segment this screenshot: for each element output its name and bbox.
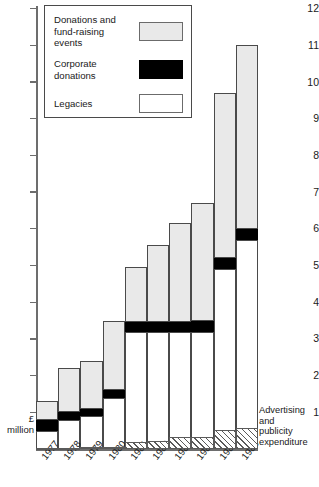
bar-segment-corporate-1982 — [147, 322, 169, 331]
bar-1984 — [191, 203, 213, 449]
advertising-band-1980 — [103, 447, 125, 449]
advertising-band-1979 — [80, 447, 102, 449]
legend-swatch-donations-icon — [139, 22, 183, 41]
bar-segment-donations-1986 — [236, 45, 258, 229]
bar-segment-legacies-1986 — [236, 240, 258, 449]
bar-segment-corporate-1979 — [80, 409, 102, 416]
bar-1986 — [236, 45, 258, 449]
bar-segment-legacies-1983 — [169, 332, 191, 449]
advertising-annotation-line1: Advertising and — [259, 405, 319, 426]
y-tick-label-8: 8 — [297, 150, 319, 160]
advertising-band-1977 — [36, 448, 58, 450]
bar-1979 — [80, 361, 102, 449]
bar-segment-donations-1978 — [58, 368, 80, 412]
bar-segment-corporate-1983 — [169, 322, 191, 331]
advertising-annotation: Advertising and publicity expenditure — [259, 405, 319, 447]
advertising-band-1984 — [191, 437, 213, 449]
advertising-band-1978 — [58, 448, 80, 450]
legend-item-donations: Donations and fund-raising events — [54, 14, 183, 49]
bar-segment-legacies-1981 — [125, 332, 147, 449]
y-tick-label-6: 6 — [297, 223, 319, 233]
bar-1981 — [125, 267, 147, 449]
y-tick-label-3: 3 — [297, 333, 319, 343]
legend-item-legacies: Legacies — [54, 94, 183, 113]
bar-segment-corporate-1981 — [125, 322, 147, 331]
bar-1983 — [169, 223, 191, 449]
y-axis-unit-symbol: £ — [0, 414, 34, 425]
bar-segment-donations-1977 — [36, 401, 58, 419]
legend-swatch-corporate-icon — [139, 60, 183, 79]
bar-segment-corporate-1984 — [191, 321, 213, 332]
bar-segment-donations-1982 — [147, 245, 169, 322]
chart-container: 123456789101112 £ million 19771978197919… — [0, 0, 319, 487]
advertising-band-1981 — [125, 442, 147, 449]
advertising-band-1986 — [236, 428, 258, 449]
y-tick-label-2: 2 — [297, 370, 319, 380]
bar-segment-corporate-1986 — [236, 229, 258, 240]
advertising-band-1985 — [214, 430, 236, 449]
y-tick-label-7: 7 — [297, 187, 319, 197]
bar-1982 — [147, 245, 169, 449]
bar-segment-legacies-1982 — [147, 332, 169, 449]
advertising-band-1983 — [169, 437, 191, 449]
bar-segment-donations-1985 — [214, 93, 236, 258]
legend-item-corporate: Corporate donations — [54, 58, 183, 81]
bar-segment-donations-1979 — [80, 361, 102, 409]
bar-1985 — [214, 93, 236, 449]
bar-segment-donations-1981 — [125, 267, 147, 322]
legend-label-corporate: Corporate donations — [54, 58, 132, 81]
y-tick-label-12: 12 — [297, 3, 319, 13]
advertising-annotation-line3: expenditure — [259, 437, 319, 448]
bar-1980 — [103, 321, 125, 449]
bar-segment-legacies-1985 — [214, 269, 236, 449]
legend-label-legacies: Legacies — [54, 98, 92, 110]
bar-1978 — [58, 368, 80, 449]
advertising-annotation-line2: publicity — [259, 426, 319, 437]
bar-segment-corporate-1980 — [103, 390, 125, 397]
legend-swatch-legacies-icon — [139, 94, 183, 113]
bar-segment-donations-1984 — [191, 203, 213, 320]
y-tick-label-9: 9 — [297, 113, 319, 123]
bar-segment-corporate-1985 — [214, 258, 236, 269]
y-tick-label-5: 5 — [297, 260, 319, 270]
y-tick-label-10: 10 — [297, 77, 319, 87]
y-tick-label-4: 4 — [297, 297, 319, 307]
bar-segment-donations-1980 — [103, 321, 125, 391]
bar-segment-corporate-1978 — [58, 412, 80, 419]
bar-segment-corporate-1977 — [36, 420, 58, 431]
legend-label-donations: Donations and fund-raising events — [54, 14, 132, 49]
y-axis-unit-label: million — [0, 425, 34, 436]
bar-segment-legacies-1984 — [191, 332, 213, 449]
advertising-band-1982 — [147, 441, 169, 449]
bar-segment-donations-1983 — [169, 223, 191, 322]
chart-legend: Donations and fund-raising events Corpor… — [44, 5, 192, 118]
y-tick-label-11: 11 — [297, 40, 319, 50]
